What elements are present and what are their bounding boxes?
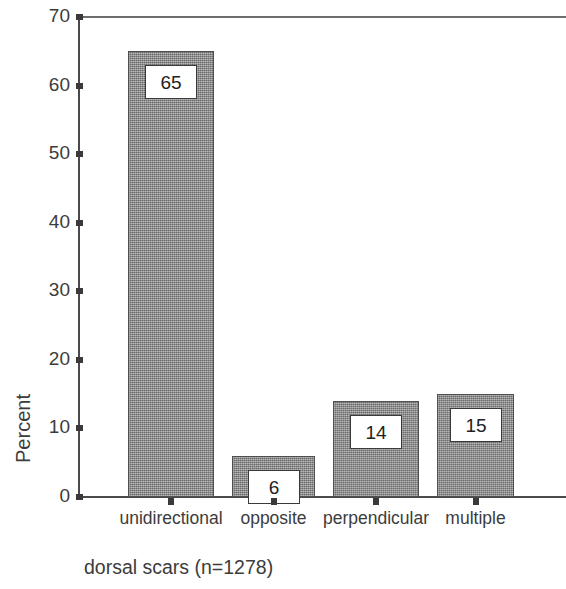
y-axis-tick (76, 494, 83, 500)
x-axis-category-label: opposite (240, 508, 306, 529)
x-axis-category-label: unidirectional (119, 508, 222, 529)
y-axis-tick-label: 0 (34, 485, 70, 507)
y-axis-tick (76, 425, 83, 431)
y-axis-tick (76, 288, 83, 294)
plot-frame-top-border (78, 16, 566, 18)
x-axis-tick (473, 498, 479, 505)
y-axis-tick (76, 14, 83, 20)
bar-value-label: 65 (145, 65, 197, 99)
y-axis-title: Percent (12, 379, 35, 479)
y-axis-tick (76, 357, 83, 363)
y-axis-tick-label: 60 (34, 74, 70, 96)
bar-value-label: 14 (350, 415, 402, 449)
y-axis-tick-label: 70 (34, 5, 70, 27)
x-axis-category-label: perpendicular (323, 508, 429, 529)
bar (128, 51, 214, 497)
y-axis-tick-label: 30 (34, 279, 70, 301)
y-axis-tick-label: 20 (34, 348, 70, 370)
x-axis-tick (373, 498, 379, 505)
bar-value-label: 15 (450, 408, 502, 442)
y-axis-tick (76, 151, 83, 157)
y-axis-tick-label: 40 (34, 211, 70, 233)
y-axis-tick (76, 83, 83, 89)
y-axis-tick-label: 10 (34, 416, 70, 438)
y-axis-tick (76, 220, 83, 226)
y-axis-tick-label: 50 (34, 142, 70, 164)
bar-chart-figure: Percent 010203040506070 6561415 unidirec… (0, 0, 566, 589)
x-axis-tick (271, 498, 277, 505)
chart-caption: dorsal scars (n=1278) (84, 556, 273, 579)
x-axis-tick (168, 498, 174, 505)
x-axis-category-label: multiple (445, 508, 505, 529)
